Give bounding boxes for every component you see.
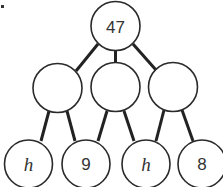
node-middle-left — [33, 64, 82, 113]
edge-middle-left-to-bottom-1 — [41, 111, 49, 141]
node-bottom-1: h — [5, 140, 53, 187]
node-bottom-4-value: 8 — [197, 155, 206, 174]
node-top-value: 47 — [106, 18, 125, 37]
node-bottom-1-value: h — [24, 154, 34, 175]
node-bottom-3: h — [122, 140, 170, 187]
number-pyramid-diagram: 47 h 9 h 8 — [0, 0, 223, 187]
edges-middle-to-bottom — [41, 110, 193, 141]
node-bottom-2: 9 — [62, 140, 110, 187]
node-middle-right — [149, 63, 198, 112]
node-middle-center — [91, 63, 140, 112]
edge-top-to-middle-left — [76, 44, 98, 71]
edge-middle-center-to-bottom-2 — [98, 111, 107, 141]
node-top: 47 — [91, 2, 140, 51]
edge-middle-left-to-bottom-2 — [67, 111, 75, 141]
node-bottom-4: 8 — [178, 140, 223, 187]
question-marker-dot — [1, 5, 4, 8]
edge-middle-right-to-bottom-4 — [182, 110, 193, 141]
edge-top-to-middle-right — [133, 44, 156, 70]
node-bottom-3-value: h — [141, 154, 151, 175]
edge-middle-right-to-bottom-3 — [156, 110, 164, 141]
node-bottom-2-value: 9 — [81, 155, 90, 174]
edge-middle-center-to-bottom-3 — [124, 111, 134, 141]
